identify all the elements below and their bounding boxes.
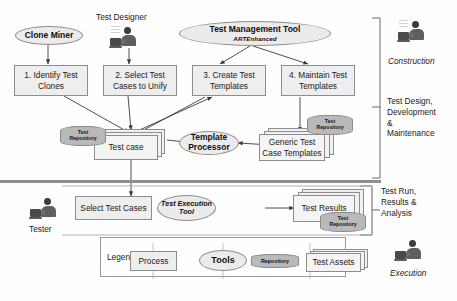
tool-template-processor[interactable]: Template Processor	[179, 131, 239, 155]
tool-test-execution-tool-line2: Tool	[179, 208, 194, 216]
asset-generic-templates-line2: Case Templates	[262, 148, 321, 158]
tool-test-management-tool-label: Test Management Tool	[210, 25, 301, 35]
phase-ddm-line3: &	[387, 118, 453, 129]
test-designer-label: Test Designer	[96, 12, 147, 23]
phase-trr-line1: Test Run,	[381, 186, 451, 197]
legend-repository-label: Repository	[261, 258, 289, 264]
test-designer-icon	[110, 26, 136, 48]
legend-process-label: Process	[139, 256, 169, 266]
process-select-test-cases[interactable]: Select Test Cases	[75, 196, 152, 220]
phase-ddm-line1: Test Design,	[387, 96, 453, 107]
process-3-line1: 3. Create Test	[203, 70, 255, 80]
construction-board	[399, 20, 408, 27]
process-1-line1: 1. Identify Test	[24, 70, 77, 80]
process-1-line2: Clones	[38, 81, 64, 91]
construction-laptop	[398, 32, 409, 40]
process-identify-test-clones[interactable]: 1. Identify Test Clones	[14, 65, 88, 96]
legend-item-repository[interactable]: Repository	[251, 254, 299, 268]
legend-item-tools[interactable]: Tools	[199, 250, 247, 271]
phase-test-run-results-analysis: Test Run, Results & Analysis	[381, 186, 451, 218]
phase-divider	[0, 180, 381, 183]
asset-test-case-label: Test case	[108, 142, 143, 152]
asset-generic-templates-front: Generic Test Case Templates	[259, 134, 325, 161]
repository-test-repository-templates[interactable]: Test Repository	[307, 115, 353, 135]
tool-clone-miner[interactable]: Clone Miner	[15, 26, 83, 45]
repo-left-line2: Repository	[69, 136, 96, 142]
phase-trr-line2: Results &	[381, 197, 451, 208]
phase-construction-label: Construction	[388, 56, 435, 67]
tool-template-processor-line2: Processor	[188, 143, 230, 153]
tool-test-execution-tool[interactable]: Test Execution Tool	[157, 195, 216, 221]
process-4-line1: 4. Maintain Test	[289, 70, 347, 80]
designer-board	[111, 26, 120, 33]
legend-test-assets-label: Test Assets	[313, 257, 355, 267]
execution-head	[409, 240, 416, 247]
phase-ddm-line2: Development	[387, 107, 453, 118]
repository-test-repository-left[interactable]: Test Repository	[60, 126, 106, 146]
tester-laptop	[30, 209, 41, 217]
execution-actor-icon	[395, 239, 421, 261]
process-select-test-cases-to-unify[interactable]: 2. Select Test Cases to Unify	[103, 65, 177, 96]
process-2-line2: Cases to Unify	[113, 81, 167, 91]
construction-actor-icon	[398, 20, 424, 42]
repository-test-repository-results[interactable]: Test Repository	[320, 212, 366, 232]
designer-head	[124, 27, 131, 34]
phase-ddm-line4: Maintenance	[387, 128, 453, 139]
process-5-label: Select Test Cases	[80, 203, 146, 213]
diagram-canvas: Clone Miner Test Management Tool ARTEnha…	[0, 0, 457, 301]
process-2-line1: 2. Select Test	[115, 70, 165, 80]
phase-design-dev-maintenance: Test Design, Development & Maintenance	[387, 96, 453, 139]
legend-tools-label: Tools	[211, 255, 234, 265]
execution-laptop	[395, 251, 406, 259]
designer-laptop	[110, 38, 121, 46]
process-4-line2: Templates	[299, 81, 337, 91]
tool-clone-miner-label: Clone Miner	[25, 31, 74, 41]
asset-generic-templates-line1: Generic Test	[269, 137, 315, 147]
tester-label: Tester	[29, 224, 52, 235]
repo-results-line2: Repository	[329, 222, 356, 228]
process-create-test-templates[interactable]: 3. Create Test Templates	[192, 65, 266, 96]
legend-asset-front: Test Assets	[306, 253, 361, 272]
process-maintain-test-templates[interactable]: 4. Maintain Test Templates	[281, 65, 355, 96]
tester-icon	[30, 197, 56, 219]
tool-test-management-tool-subtitle: ARTEnhanced	[233, 35, 276, 42]
tester-head	[44, 198, 51, 205]
repo-templates-line2: Repository	[316, 125, 343, 131]
phase-trr-line3: Analysis	[381, 208, 451, 219]
process-3-line2: Templates	[210, 81, 248, 91]
construction-head	[412, 21, 419, 28]
tool-test-management-tool[interactable]: Test Management Tool ARTEnhanced	[179, 21, 331, 46]
phase-execution-label: Execution	[390, 268, 426, 279]
legend-item-test-assets[interactable]: Test Assets	[306, 249, 374, 273]
legend-item-process[interactable]: Process	[130, 251, 177, 271]
